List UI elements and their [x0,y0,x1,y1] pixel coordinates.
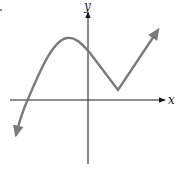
x-axis-label: x [168,93,175,107]
function-graph: y x [0,0,180,170]
y-axis-label: y [83,0,91,13]
graph-canvas: y x [0,0,180,170]
stray-mark [0,9,2,11]
function-curve [16,30,158,135]
